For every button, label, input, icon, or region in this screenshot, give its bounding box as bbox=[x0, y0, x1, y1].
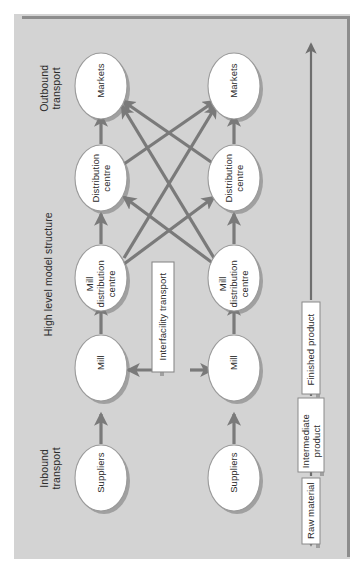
node-label-suppliers-1: Suppliers bbox=[95, 446, 106, 500]
interfacility-transport-label: Interfacility transport bbox=[157, 266, 168, 368]
cross-arrows bbox=[122, 101, 216, 264]
node-label-markets-2: Markets bbox=[228, 56, 239, 106]
node-label-dc-2: Distribution centre bbox=[223, 143, 245, 213]
raw-material-label: Raw material bbox=[305, 476, 316, 546]
edge-milldc1-markets2 bbox=[124, 106, 216, 258]
node-label-mill-dc-2: Mill distribution centre bbox=[217, 254, 251, 314]
node-label-suppliers-2: Suppliers bbox=[228, 446, 239, 500]
section-label-inbound: Inbound transport bbox=[38, 420, 63, 516]
edge-milldc2-markets1 bbox=[122, 106, 214, 258]
figure-root: Outbound transport High level model stru… bbox=[0, 0, 363, 571]
node-label-mill-dc-1: Mill distribution centre bbox=[84, 254, 118, 314]
finished-product-label: Finished product bbox=[305, 307, 316, 393]
node-label-markets-1: Markets bbox=[95, 56, 106, 106]
node-label-mill-2: Mill bbox=[228, 344, 239, 382]
section-label-outbound: Outbound transport bbox=[38, 40, 63, 136]
page-title: High level model structure bbox=[42, 189, 54, 359]
intermediate-product-label: Intermediate product bbox=[300, 402, 322, 480]
node-label-dc-1: Distribution centre bbox=[90, 143, 112, 213]
node-label-mill-1: Mill bbox=[95, 344, 106, 382]
